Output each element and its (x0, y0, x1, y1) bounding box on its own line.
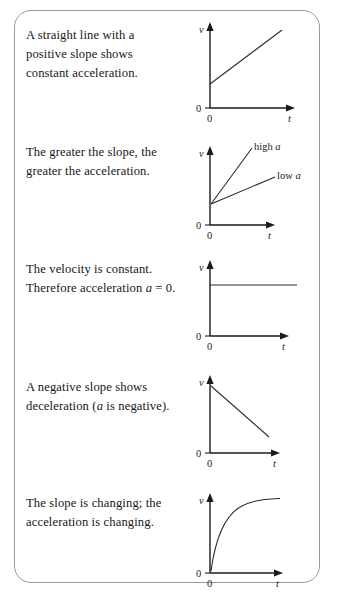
origin-y-label: 0 (196, 568, 201, 579)
caption-line: The greater the slope, the (26, 143, 198, 162)
figure-root: A straight line with a positive slope sh… (0, 0, 338, 601)
x-axis-arrowhead (274, 569, 283, 576)
annotation-high-a: high a (254, 141, 281, 152)
y-axis-arrowhead (206, 493, 213, 502)
panel-greater-slope: The greater the slope, the greater the a… (14, 131, 320, 249)
x-axis-label: t (273, 458, 277, 469)
y-axis-arrowhead (206, 260, 213, 269)
origin-y-label: 0 (196, 448, 201, 459)
y-axis-label: v (199, 24, 204, 35)
origin-x-label: 0 (207, 341, 212, 352)
caption-line-head: Therefore acceleration (26, 281, 146, 295)
panel-caption: The slope is changing; the acceleration … (26, 494, 198, 532)
origin-x-label: 0 (207, 578, 212, 589)
caption-line: The velocity is constant. (26, 260, 198, 279)
graph-constant-velocity: v t 0 0 (190, 250, 318, 362)
data-line-velocity (210, 30, 282, 84)
graph-negative-slope: v t 0 0 (190, 368, 318, 480)
origin-x-label: 0 (207, 230, 212, 241)
caption-line-tail: is negative). (103, 399, 169, 413)
y-axis-label: v (199, 377, 204, 388)
origin-x-label: 0 (207, 458, 212, 469)
origin-y-label: 0 (196, 103, 201, 114)
y-axis-arrowhead (206, 375, 213, 384)
x-axis-label: t (282, 341, 286, 352)
x-axis-label: t (276, 578, 280, 589)
origin-y-label: 0 (196, 220, 201, 231)
panel-caption: The greater the slope, the greater the a… (26, 143, 198, 181)
panel-negative-slope: A negative slope shows deceleration (a i… (14, 366, 320, 484)
y-axis-label: v (199, 495, 204, 506)
caption-line: A negative slope shows (26, 378, 198, 397)
caption-line: A straight line with a (26, 26, 198, 45)
x-axis-arrowhead (266, 221, 275, 228)
x-axis-arrowhead (280, 332, 289, 339)
y-axis-label: v (199, 262, 204, 273)
data-line-deceleration (211, 386, 269, 437)
origin-x-label: 0 (207, 113, 212, 124)
y-axis-arrowhead (206, 146, 213, 155)
caption-line: acceleration is changing. (26, 513, 198, 532)
caption-line: positive slope shows (26, 45, 198, 64)
caption-line: Therefore acceleration a = 0. (26, 279, 198, 298)
panel-changing-slope: The slope is changing; the acceleration … (14, 482, 320, 600)
panel-constant-acceleration: A straight line with a positive slope sh… (14, 14, 320, 132)
x-axis-label: t (268, 230, 272, 241)
caption-line: The slope is changing; the (26, 494, 198, 513)
panel-caption: A straight line with a positive slope sh… (26, 26, 198, 83)
caption-line-tail: = 0. (152, 281, 175, 295)
y-axis-label: v (199, 148, 204, 159)
data-curve-changing-acceleration (211, 499, 280, 572)
caption-line: deceleration (a is negative). (26, 397, 198, 416)
origin-y-label: 0 (196, 331, 201, 342)
caption-line: constant acceleration. (26, 64, 198, 83)
x-axis-label: t (288, 113, 292, 124)
annotation-low-a: low a (277, 170, 301, 181)
x-axis-arrowhead (271, 449, 280, 456)
y-axis-arrowhead (206, 22, 213, 31)
caption-line-head: deceleration ( (26, 399, 97, 413)
graph-greater-slope: v t 0 0 high a low a (190, 133, 318, 245)
panel-caption: The velocity is constant. Therefore acce… (26, 260, 198, 298)
caption-line: greater the acceleration. (26, 162, 198, 181)
x-axis-arrowhead (286, 104, 295, 111)
graph-constant-acceleration: v t 0 0 (190, 16, 318, 128)
panel-constant-velocity: The velocity is constant. Therefore acce… (14, 248, 320, 366)
graph-changing-slope: v t 0 0 (190, 484, 318, 596)
panel-caption: A negative slope shows deceleration (a i… (26, 378, 198, 416)
